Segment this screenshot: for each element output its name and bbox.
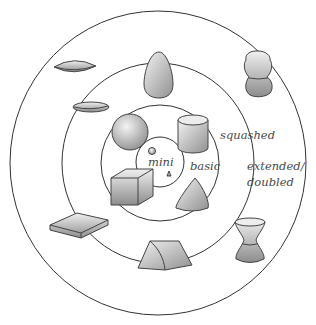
squashed-disc-icon [73, 102, 109, 112]
label-doubled: doubled [247, 175, 294, 189]
sphere-icon [112, 114, 148, 150]
double-sphere-bottle-icon [244, 51, 272, 97]
cylinder-icon [178, 115, 208, 153]
small-cone-icon [167, 171, 171, 176]
hourglass-icon [235, 218, 265, 263]
rings-diagram: mini basic squashed extended/ doubled [0, 0, 316, 325]
flat-box-icon [50, 213, 108, 238]
cone-icon [176, 178, 208, 211]
label-basic: basic [190, 159, 221, 173]
flat-lens-icon [54, 61, 96, 72]
cube-icon [111, 169, 153, 205]
tent-prism-icon [138, 241, 192, 270]
label-extended: extended/ [247, 159, 306, 173]
small-sphere-icon [149, 148, 156, 155]
label-squashed: squashed [220, 128, 275, 142]
label-mini: mini [148, 155, 174, 169]
egg-icon [144, 52, 173, 98]
